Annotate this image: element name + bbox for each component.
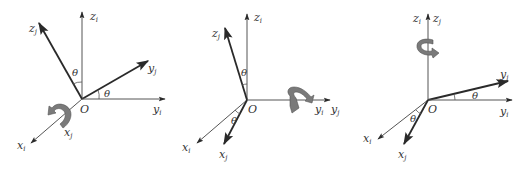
axis-zj — [39, 23, 82, 99]
theta-label: θ — [104, 88, 110, 99]
origin-label: O — [248, 103, 257, 116]
theta-arc-x — [416, 110, 421, 114]
theta-label: θ — [410, 113, 416, 124]
label-xj: xj — [398, 148, 407, 162]
theta-arc-y — [98, 90, 99, 99]
label-xi: xi — [17, 139, 25, 153]
label-xj: xj — [219, 148, 228, 162]
label-zi: zi — [89, 10, 98, 24]
label-yj: yj — [499, 68, 509, 82]
theta-label: θ — [472, 90, 478, 101]
axis-yj — [428, 81, 508, 100]
label-yj: yj — [330, 103, 340, 117]
label-zi: zi — [253, 11, 262, 25]
panel-rotation-z: zi zj yj yi xi xj O θ θ — [363, 12, 512, 162]
theta-arc-z — [73, 82, 82, 84]
axis-xi — [378, 100, 428, 139]
axis-xi — [197, 100, 247, 143]
label-xi: xi — [182, 141, 190, 155]
label-yi: yi — [314, 103, 323, 117]
label-zj: zj — [28, 22, 38, 36]
origin-label: O — [80, 103, 89, 116]
panel-rotation-x: zi zj yj yi xi xj O θ θ — [17, 10, 165, 153]
axis-yj — [82, 61, 148, 99]
label-xi: xi — [363, 132, 371, 146]
label-zi: zi — [412, 12, 421, 26]
axis-zj — [225, 28, 247, 100]
rotation-arrow-icon — [48, 104, 71, 128]
label-zj: zj — [432, 12, 442, 26]
rotation-diagram: zi zj yj yi xi xj O θ θ zi zj yi yj xi x… — [0, 0, 529, 172]
origin-label: O — [428, 103, 437, 116]
theta-arc-x — [235, 110, 240, 114]
theta-label: θ — [72, 67, 78, 78]
label-yi: yi — [152, 103, 161, 117]
theta-label: θ — [241, 67, 247, 78]
theta-arc-y — [454, 94, 455, 100]
label-yi: yi — [499, 105, 508, 119]
theta-label: θ — [231, 115, 237, 126]
panel-rotation-y: zi zj yi yj xi xj O θ θ — [182, 11, 340, 162]
label-xj: xj — [64, 126, 73, 140]
label-zj: zj — [211, 27, 221, 41]
label-yj: yj — [147, 62, 157, 76]
